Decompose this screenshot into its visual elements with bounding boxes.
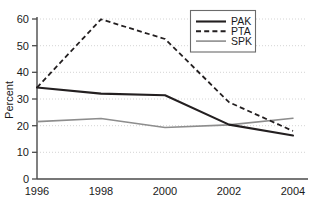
xtick-label-2000: 2000: [153, 185, 177, 197]
ytick-label-40: 40: [17, 66, 29, 78]
xtick-label-2002: 2002: [217, 185, 241, 197]
ytick-label-30: 30: [17, 93, 29, 105]
legend: PAK PTA SPK: [191, 11, 256, 53]
ytick-label-0: 0: [23, 173, 29, 185]
line-chart-svg: 60 50 40 30 20 10 0 Percent 1996 1998 20…: [0, 0, 314, 212]
ytick-label-50: 50: [17, 40, 29, 52]
chart-container: 60 50 40 30 20 10 0 Percent 1996 1998 20…: [0, 0, 314, 212]
grid-lines: [37, 19, 306, 152]
series-line-PAK: [37, 88, 293, 136]
y-tick-marks: [32, 19, 37, 179]
xtick-label-1996: 1996: [25, 185, 49, 197]
y-axis-title: Percent: [3, 81, 15, 119]
ytick-label-60: 60: [17, 13, 29, 25]
ytick-label-20: 20: [17, 120, 29, 132]
series-line-SPK: [37, 118, 293, 127]
xtick-label-2004: 2004: [281, 185, 305, 197]
ytick-label-10: 10: [17, 146, 29, 158]
xtick-label-1998: 1998: [89, 185, 113, 197]
legend-label-SPK: SPK: [231, 35, 252, 47]
